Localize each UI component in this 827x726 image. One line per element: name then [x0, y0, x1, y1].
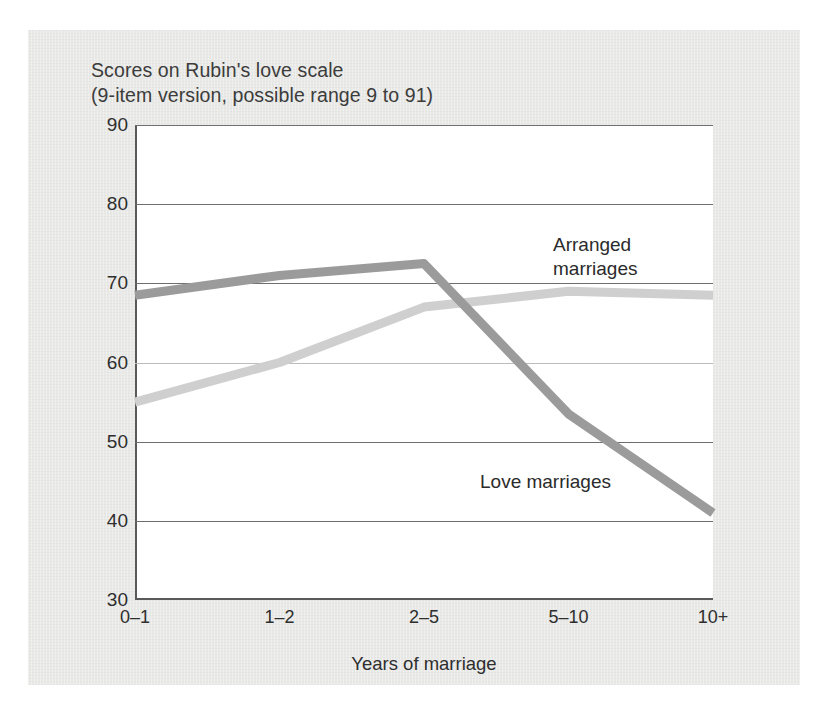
y-tick-label-80: 80 — [68, 193, 128, 215]
chart-title: Scores on Rubin's love scale (9-item ver… — [91, 58, 433, 108]
y-tick-label-60: 60 — [68, 352, 128, 374]
y-tick-label-90: 90 — [68, 114, 128, 136]
plot-wrapper: 90807060504030 0–11–22–55–1010+ Years of… — [135, 125, 713, 600]
series-label-love-marriages: Love marriages — [480, 470, 611, 494]
series-line-arranged-marriages — [135, 291, 713, 402]
x-tick-label-3: 5–10 — [548, 607, 588, 628]
x-tick-label-4: 10+ — [698, 607, 729, 628]
y-tick-label-70: 70 — [68, 272, 128, 294]
x-axis-title: Years of marriage — [135, 653, 713, 675]
x-tick-label-2: 2–5 — [409, 607, 439, 628]
chart-figure: Scores on Rubin's love scale (9-item ver… — [28, 30, 800, 685]
series-label-arranged-marriages: Arranged marriages — [553, 233, 637, 281]
data-lines — [135, 125, 713, 600]
y-tick-label-50: 50 — [68, 431, 128, 453]
series-line-love-marriages — [135, 264, 713, 513]
x-tick-label-1: 1–2 — [264, 607, 294, 628]
x-tick-label-0: 0–1 — [120, 607, 150, 628]
y-tick-label-40: 40 — [68, 510, 128, 532]
